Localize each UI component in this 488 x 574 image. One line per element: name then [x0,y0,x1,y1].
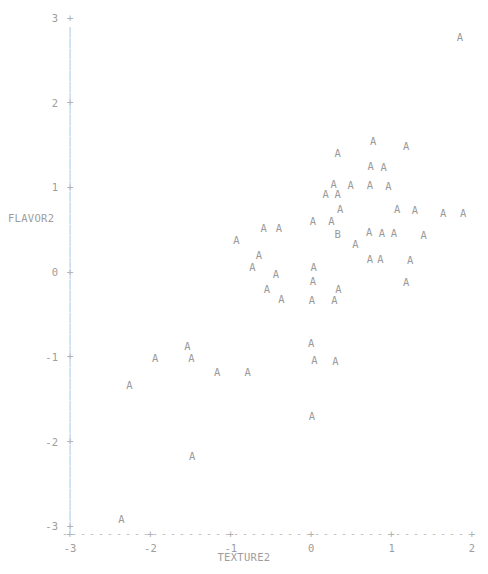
y-axis-dash: | [63,247,77,257]
y-tick-label: -2 [18,437,58,448]
y-axis-dash: | [63,258,77,268]
y-axis-dash: | [63,467,77,477]
data-point-a: A [458,208,468,219]
x-axis-dash: - [440,529,446,539]
data-point-a: A [438,208,448,219]
y-axis-dash: | [63,82,77,92]
x-axis-dash: - [269,529,275,539]
y-axis-dash: | [63,225,77,235]
x-axis-dash: - [341,529,347,539]
y-axis-dash: | [63,93,77,103]
x-axis-dash: - [260,529,266,539]
x-axis-dash: - [395,529,401,539]
data-point-a: A [276,294,286,305]
x-axis-dash: - [125,529,131,539]
data-point-a: A [364,227,374,238]
data-point-a: A [307,295,317,306]
x-axis-dash: - [152,529,158,539]
x-axis-dash: - [431,529,437,539]
y-axis-dash: | [63,478,77,488]
y-axis-dash: | [63,511,77,521]
y-axis-dash: | [63,357,77,367]
data-point-a: A [321,189,331,200]
y-tick-label: 1 [18,182,58,193]
data-point-a: A [333,189,343,200]
data-point-a: A [419,230,429,241]
y-axis-dash: | [63,280,77,290]
x-axis-dash: - [134,529,140,539]
y-tick-label: -1 [18,352,58,363]
y-axis-dash: | [63,27,77,37]
y-axis-dash: | [63,335,77,345]
data-point-a: A [350,239,360,250]
x-axis-dash: - [62,529,68,539]
y-axis-dash: | [63,181,77,191]
data-point-a: A [334,284,344,295]
data-point-a: A [383,181,393,192]
y-axis-dash: | [63,412,77,422]
data-point-a: A [309,355,319,366]
x-axis-dash: - [107,529,113,539]
x-axis-dash: - [458,529,464,539]
data-point-a: A [330,295,340,306]
y-axis-dash: | [63,500,77,510]
y-axis-dash: | [63,148,77,158]
data-point-a: A [274,223,284,234]
x-axis-dash: - [188,529,194,539]
y-axis-dash: | [63,60,77,70]
x-axis-dash: - [305,529,311,539]
y-tick-label: 0 [18,267,58,278]
data-point-a: A [365,254,375,265]
x-axis-dash: - [332,529,338,539]
data-point-a: A [306,338,316,349]
y-axis-dash: | [63,434,77,444]
data-point-a: A [212,367,222,378]
data-point-a: A [326,216,336,227]
data-point-a: A [455,32,465,43]
x-axis-dash: - [161,529,167,539]
y-axis-dash: | [63,170,77,180]
y-axis-dash: | [63,49,77,59]
data-point-a: A [182,341,192,352]
x-axis-dash: - [314,529,320,539]
y-axis-dash: | [63,137,77,147]
x-axis-dash: - [179,529,185,539]
y-axis-dash: | [63,104,77,114]
data-point-a: A [124,380,134,391]
x-axis-dash: - [404,529,410,539]
data-point-a: A [401,141,411,152]
data-point-a: A [308,216,318,227]
x-axis-dash: - [233,529,239,539]
y-axis-dash: | [63,71,77,81]
data-point-a: A [389,228,399,239]
x-axis-dash: - [350,529,356,539]
data-point-a: A [401,277,411,288]
data-point-a: A [254,250,264,261]
y-axis-dash: | [63,269,77,279]
x-axis-dash: - [197,529,203,539]
data-point-a: A [375,254,385,265]
x-axis-dash: - [98,529,104,539]
data-point-a: A [116,514,126,525]
data-point-a: A [186,353,196,364]
data-point-a: A [410,205,420,216]
y-tick-mark: + [63,13,77,24]
y-axis-dash: | [63,346,77,356]
y-axis-dash: | [63,445,77,455]
x-axis-dash: - [287,529,293,539]
data-point-a: A [346,180,356,191]
x-axis-dash: - [242,529,248,539]
data-point-a: A [366,161,376,172]
x-axis-dash: - [116,529,122,539]
x-axis-label: TEXTURE2 [0,551,488,563]
y-axis-dash: | [63,313,77,323]
x-axis-dash: - [386,529,392,539]
y-axis-dash: | [63,401,77,411]
y-axis-dash: | [63,159,77,169]
data-point-a: A [271,269,281,280]
data-point-a: A [248,262,258,273]
data-point-a: A [368,136,378,147]
data-point-a: A [392,204,402,215]
y-axis-dash: | [63,390,77,400]
x-axis-dash: - [143,529,149,539]
